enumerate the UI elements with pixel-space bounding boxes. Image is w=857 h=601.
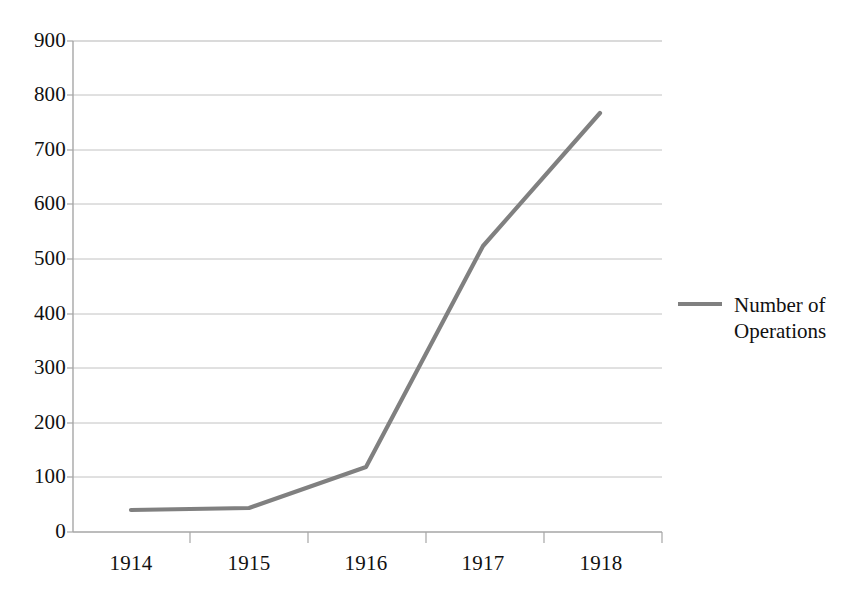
x-tick-label-1916: 1916 [345,553,388,574]
y-tick-label-400: 400 [12,303,66,324]
y-tick-label-0: 0 [12,521,66,542]
x-axis-ticks [190,532,662,543]
x-axis-labels: 1914 1915 1916 1917 1918 [73,553,662,583]
y-tick-label-200: 200 [12,412,66,433]
x-tick-label-1914: 1914 [110,553,153,574]
legend-label-line-1: Number of [734,292,826,318]
y-tick-label-300: 300 [12,357,66,378]
legend-entry-label: Number of Operations [734,292,826,344]
chart-legend: Number of Operations [678,292,826,344]
x-tick-label-1918: 1918 [580,553,623,574]
y-tick-label-600: 600 [12,193,66,214]
legend-label-line-2: Operations [734,318,826,344]
y-tick-label-800: 800 [12,84,66,105]
gridlines [73,41,662,477]
line-chart: 900 800 700 600 500 400 300 200 100 0 19… [0,0,857,601]
axis-lines [73,41,662,532]
x-tick-label-1917: 1917 [462,553,505,574]
legend-line-swatch [678,302,722,306]
y-tick-label-500: 500 [12,248,66,269]
y-tick-label-700: 700 [12,139,66,160]
y-axis-ticks [67,41,73,532]
series-number-of-operations [131,113,600,510]
x-tick-label-1915: 1915 [228,553,271,574]
y-tick-label-900: 900 [12,30,66,51]
y-tick-label-100: 100 [12,466,66,487]
y-axis-labels: 900 800 700 600 500 400 300 200 100 0 [0,0,66,601]
